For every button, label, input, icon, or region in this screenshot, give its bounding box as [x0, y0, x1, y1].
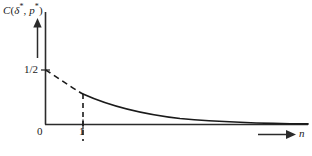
curve-solid-tail — [83, 94, 308, 124]
y-tick-label-half: 1/2 — [24, 64, 38, 75]
curve-dashed-head — [46, 70, 84, 94]
y-axis-arrow-icon — [33, 18, 41, 58]
x-axis-arrow-icon — [258, 130, 296, 139]
y-axis-label: C(δ*, p*) — [3, 3, 43, 16]
figure-container: C(δ*, p*) 1/2 0 1 n — [0, 0, 312, 156]
x-axis-label: n — [299, 128, 305, 139]
x-tick-label-one: 1 — [79, 126, 85, 137]
x-tick-label-zero: 0 — [37, 126, 43, 137]
chart-plot — [0, 0, 312, 156]
